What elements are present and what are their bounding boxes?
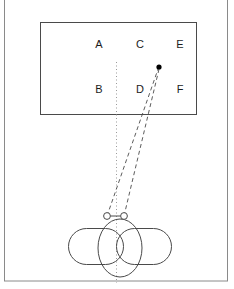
panel-label-e: E [176,38,183,50]
head-outline [98,219,142,277]
left-eye [104,213,111,220]
right-eye [121,213,128,220]
figure-root: A C E B D F [0,0,234,289]
panel-label-b: B [95,83,102,95]
panel-label-d: D [136,83,144,95]
display-panel [41,23,197,115]
sight-line-left-eye [107,68,159,217]
panel-label-f: F [177,83,184,95]
target-dot [156,64,161,69]
diagram-canvas: A C E B D F [0,0,234,289]
panel-label-c: C [136,38,144,50]
panel-label-a: A [95,38,103,50]
